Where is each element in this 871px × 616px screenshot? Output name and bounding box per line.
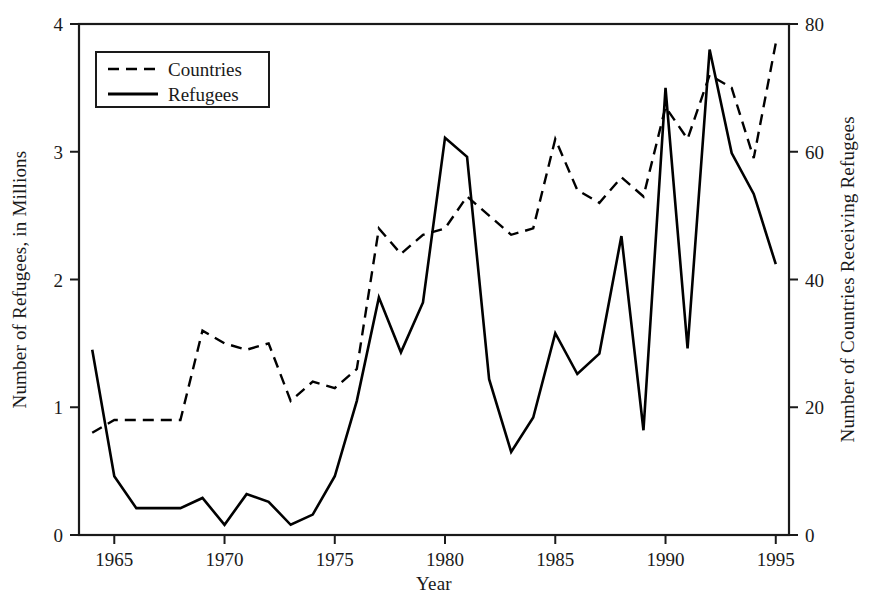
- y-tick-label-right: 60: [805, 142, 824, 163]
- y-tick-label-left: 0: [54, 525, 64, 546]
- x-tick-label: 1980: [426, 549, 464, 570]
- x-tick-label: 1985: [536, 549, 574, 570]
- y-tick-label-right: 0: [805, 525, 815, 546]
- x-tick-label: 1975: [316, 549, 354, 570]
- y-tick-label-left: 3: [54, 142, 64, 163]
- x-tick-label: 1970: [206, 549, 244, 570]
- y-tick-label-left: 4: [54, 14, 64, 35]
- legend-label-countries: Countries: [168, 59, 242, 80]
- y-axis-right-title: Number of Countries Receiving Refugees: [837, 116, 859, 442]
- series-line-refugees: [92, 50, 776, 525]
- y-tick-label-left: 2: [54, 270, 64, 291]
- y-axis-left-title: Number of Refugees, in Millions: [9, 151, 31, 409]
- y-tick-label-right: 80: [805, 14, 824, 35]
- y-tick-label-right: 40: [805, 270, 824, 291]
- y-tick-label-right: 20: [805, 397, 824, 418]
- x-tick-label: 1965: [95, 549, 133, 570]
- chart-figure: 1965197019751980198519901995012340204060…: [0, 0, 871, 616]
- x-tick-label: 1995: [757, 549, 795, 570]
- legend-label-refugees: Refugees: [168, 84, 239, 105]
- chart-canvas: 1965197019751980198519901995012340204060…: [0, 0, 871, 616]
- y-tick-label-left: 1: [54, 397, 64, 418]
- x-axis-title: Year: [416, 573, 452, 595]
- x-tick-label: 1990: [647, 549, 685, 570]
